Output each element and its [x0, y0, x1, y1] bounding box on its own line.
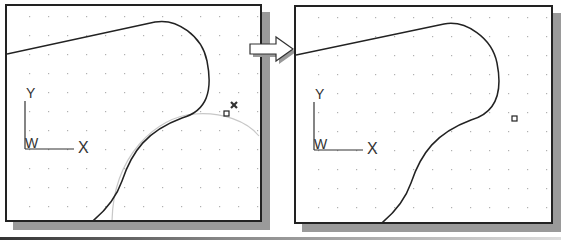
x-axis-label: X [367, 140, 378, 157]
y-axis-label: Y [315, 86, 325, 102]
right-drawing: Y W X [296, 7, 553, 224]
cross-marker [231, 102, 237, 108]
right-viewport[interactable]: Y W X [294, 5, 553, 224]
x-axis-label: X [78, 139, 89, 156]
w-label: W [25, 135, 39, 151]
right-arrow-icon [246, 34, 298, 64]
y-axis-label: Y [26, 85, 36, 101]
left-viewport[interactable]: Y W X [5, 4, 262, 222]
grid-dots [318, 17, 547, 208]
snap-square-marker [224, 111, 229, 116]
left-drawing: Y W X [7, 6, 262, 222]
snap-square-marker [512, 116, 517, 121]
profile-curve [296, 23, 499, 224]
profile-curve [7, 21, 209, 222]
construction-arc [112, 114, 259, 222]
w-label: W [314, 136, 328, 152]
